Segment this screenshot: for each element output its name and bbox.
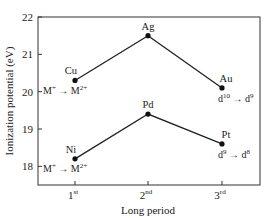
y-axis-title: Ionization potential (eV) (3, 46, 16, 155)
annotation-Pt: d9 → d8 (218, 148, 251, 160)
point-label-Ni: Ni (66, 144, 77, 155)
x-axis-title: Long period (121, 204, 176, 216)
point-label-Au: Au (220, 73, 234, 84)
series-group: CuAgAuNiPdPt (65, 21, 233, 162)
annotation-Ni: M+ → M2+ (43, 162, 87, 174)
x-tick-label-1st: 1st (68, 188, 78, 201)
y-tick-label: 21 (22, 48, 33, 60)
data-point-Pt (219, 141, 224, 146)
data-point-Ag (145, 33, 150, 38)
data-point-Cu (72, 78, 77, 83)
data-point-Pd (145, 111, 150, 116)
point-label-Ag: Ag (142, 21, 156, 32)
data-point-Au (219, 85, 224, 90)
x-tick-label-2nd: 2nd (140, 188, 153, 201)
x-axis: 1st2nd3rd (68, 181, 226, 201)
y-tick-label: 19 (22, 123, 34, 135)
y-tick-label: 18 (22, 160, 34, 172)
y-axis: 1819202122 (22, 11, 42, 172)
x-tick-label-3rd: 3rd (214, 188, 226, 201)
y-tick-label: 20 (22, 86, 34, 98)
data-point-Ni (72, 156, 77, 161)
annotation-Au: d10 → d9 (218, 92, 254, 104)
point-label-Pt: Pt (222, 129, 231, 140)
annotation-Cu: M+ → M2+ (43, 84, 87, 96)
ionization-potential-chart: 1819202122 1st2nd3rd CuAgAuNiPdPt M+ → M… (0, 0, 269, 218)
y-tick-label: 22 (22, 11, 33, 23)
series-line-0 (75, 36, 222, 88)
point-label-Pd: Pd (142, 99, 154, 110)
point-label-Cu: Cu (65, 65, 78, 76)
series-line-1 (75, 114, 222, 159)
